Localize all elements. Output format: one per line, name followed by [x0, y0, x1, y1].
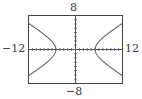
graph-viewport [0, 0, 142, 99]
axes [29, 16, 123, 84]
